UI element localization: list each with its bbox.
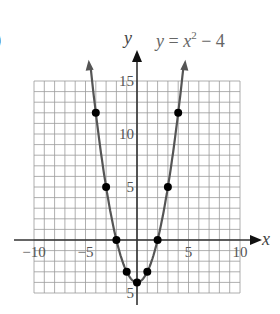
data-point <box>154 236 162 244</box>
y-tick-label: 10 <box>119 126 134 142</box>
data-point <box>102 183 110 191</box>
x-axis-label: x <box>261 229 270 249</box>
y-axis-label: y <box>122 28 132 48</box>
x-tick-label: −5 <box>78 244 94 260</box>
parabola-plot: −10−5510151055 y = x2 − 4 y x <box>0 0 280 314</box>
x-tick-label: −10 <box>22 244 45 260</box>
y-tick-label: 5 <box>127 285 135 301</box>
y-axis-arrow-icon <box>132 50 142 62</box>
data-point <box>174 109 182 117</box>
axes <box>14 50 262 305</box>
data-point <box>133 278 141 286</box>
y-tick-label: 15 <box>119 73 134 89</box>
data-point <box>164 183 172 191</box>
equation-label: y = x2 − 4 <box>154 29 225 51</box>
data-point <box>112 236 120 244</box>
x-tick-label: 10 <box>233 244 248 260</box>
curve-arrow-right-icon <box>180 60 188 71</box>
y-tick-label: 5 <box>127 179 135 195</box>
x-tick-label: 5 <box>185 244 193 260</box>
data-point <box>143 268 151 276</box>
curve-arrow-left-icon <box>86 60 94 71</box>
data-point <box>123 268 131 276</box>
data-point <box>92 109 100 117</box>
x-axis-arrow-icon <box>250 235 262 245</box>
